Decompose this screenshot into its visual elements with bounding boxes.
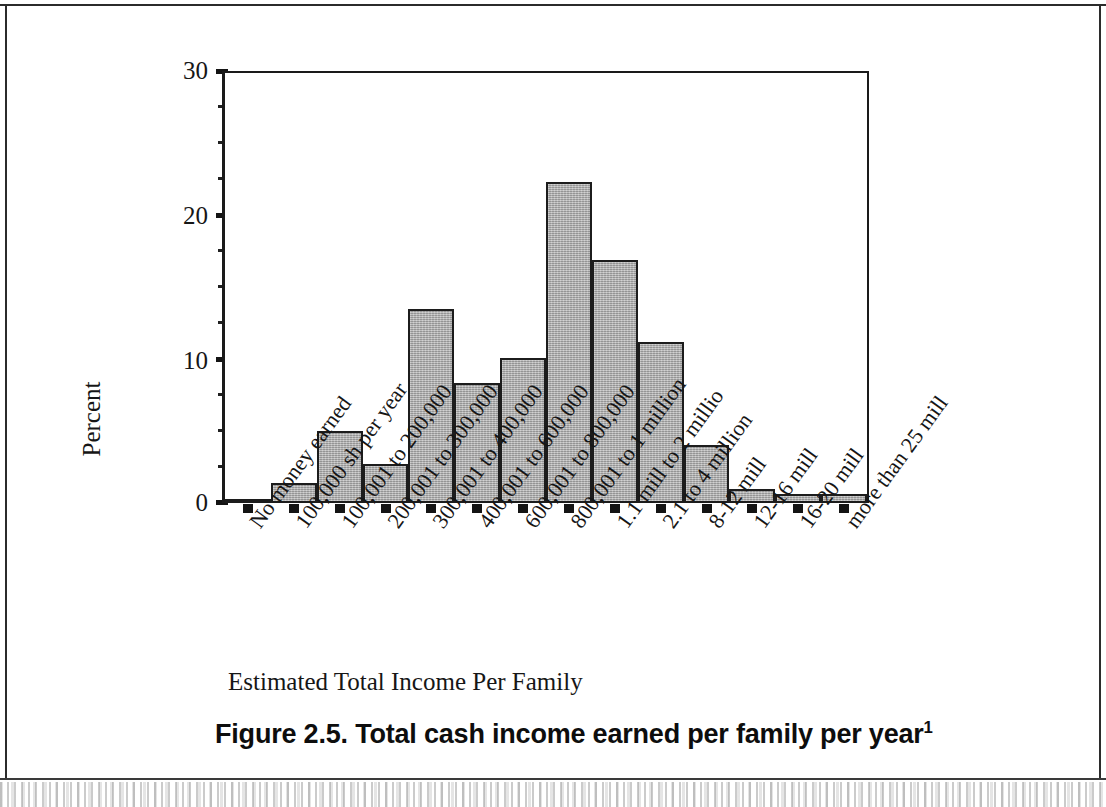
y-tick-label-20: 20 (148, 203, 208, 228)
y-axis-title: Percent (78, 309, 106, 529)
bar-chart-figure: 30 20 10 0 Percent (0, 0, 1106, 807)
figure-caption-footnote-marker: 1 (924, 718, 933, 737)
y-tick-label-10: 10 (148, 348, 208, 373)
x-axis-title: Estimated Total Income Per Family (228, 668, 583, 696)
y-tick-label-30: 30 (148, 58, 208, 83)
y-tick-label-0: 0 (148, 490, 208, 515)
figure-caption-text: Figure 2.5. Total cash income earned per… (215, 719, 924, 749)
figure-caption: Figure 2.5. Total cash income earned per… (215, 718, 933, 750)
scanned-page: 30 20 10 0 Percent (0, 0, 1106, 807)
